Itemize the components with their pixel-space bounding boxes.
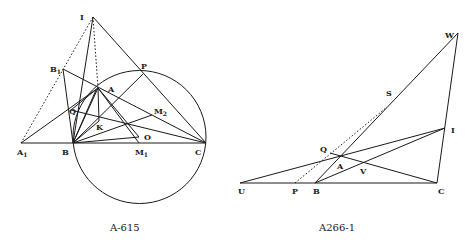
line-a-m1 xyxy=(98,88,139,143)
line-q-c xyxy=(330,153,437,183)
label-a: A xyxy=(107,84,115,94)
line-u-i xyxy=(240,128,445,183)
label-q: Q xyxy=(69,106,76,116)
label-o: O xyxy=(144,132,151,142)
line-w-c xyxy=(437,33,458,183)
label-a1: A1 xyxy=(16,147,27,158)
dashed-i-a xyxy=(93,17,98,88)
figure-a266-1: W S I Q A V U P B C A266-1 xyxy=(238,30,458,233)
circumcircle xyxy=(73,71,206,204)
line-i-c xyxy=(93,17,206,143)
line-i-b xyxy=(73,17,93,143)
figure-a615: I B1 A P M2 Q K O A1 B M1 C A-615 xyxy=(16,12,206,233)
label-p2: P xyxy=(292,186,298,196)
label-b: B xyxy=(62,147,69,157)
dashed-a1-i xyxy=(21,17,93,143)
label-m1: M1 xyxy=(135,147,148,158)
label-b1: B1 xyxy=(50,64,61,75)
label-m2: M2 xyxy=(154,106,167,117)
label-u: U xyxy=(238,186,245,196)
caption-left: A-615 xyxy=(109,222,140,233)
label-p: P xyxy=(141,61,147,71)
label-a2: A xyxy=(336,161,344,171)
line-b-m2 xyxy=(73,115,152,143)
line-a1-a xyxy=(21,88,98,143)
label-c2: C xyxy=(438,186,444,196)
label-b2: B xyxy=(313,186,320,196)
label-w: W xyxy=(444,30,455,40)
label-v: V xyxy=(359,166,367,176)
label-s: S xyxy=(386,88,392,98)
diagram-canvas: I B1 A P M2 Q K O A1 B M1 C A-615 W S I … xyxy=(0,0,473,243)
label-c: C xyxy=(195,147,201,157)
line-q-c xyxy=(71,110,206,143)
label-k: K xyxy=(96,122,104,132)
label-i2: I xyxy=(451,125,455,135)
label-i: I xyxy=(80,12,84,22)
line-a-k xyxy=(98,88,99,121)
line-b-i xyxy=(315,128,445,183)
label-q2: Q xyxy=(320,144,327,154)
caption-right: A266-1 xyxy=(318,222,355,233)
